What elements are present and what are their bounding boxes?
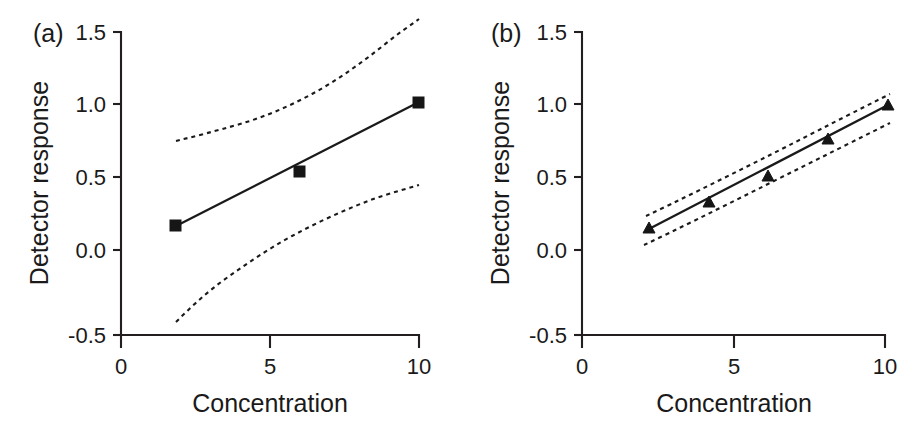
y-tick-label-a-4: 0.0 [75, 238, 106, 263]
panel-b-ci-lower [644, 123, 890, 245]
y-tick-label-b-1: 1.5 [536, 20, 567, 45]
y-tick-label-a-5: -0.5 [68, 323, 106, 348]
y-axis-title-b: Detector response [486, 81, 514, 285]
x-tick-label-b-2: 5 [728, 354, 740, 379]
panel-a-ci-lower [176, 185, 419, 322]
x-tick-label-a-1: 0 [115, 354, 127, 379]
x-tick-label-b-3: 10 [873, 354, 897, 379]
confidence-band-upper-a [176, 19, 419, 141]
data-point-marker [170, 220, 181, 231]
y-tick-label-a-2: 1.0 [75, 92, 106, 117]
data-point-marker [703, 196, 715, 207]
panel-b-svg: (b) 1.5 1.0 0.5 0.0 -0.5 0 5 10 Concentr… [458, 0, 916, 427]
y-tick-label-b-3: 0.5 [536, 165, 567, 190]
confidence-band-lower-a [176, 185, 419, 322]
y-tick-label-b-5: -0.5 [529, 323, 567, 348]
panel-a-svg: (a) 1.5 1.0 0.5 0.0 -0.5 0 5 10 Concentr… [0, 0, 458, 427]
panel-b-labels: (b) 1.5 1.0 0.5 0.0 -0.5 0 5 10 Concentr… [486, 19, 897, 417]
panel-b-ci-upper [646, 94, 890, 216]
y-tick-label-a-3: 0.5 [75, 165, 106, 190]
data-point-marker [882, 99, 894, 110]
panel-b-axes [574, 32, 885, 348]
x-tick-label-a-2: 5 [264, 354, 276, 379]
panel-label-b: (b) [491, 19, 522, 47]
x-axis-title-a: Concentration [192, 389, 348, 417]
chart-panel-b: (b) 1.5 1.0 0.5 0.0 -0.5 0 5 10 Concentr… [458, 0, 916, 427]
data-point-marker [413, 97, 424, 108]
regression-line-a [176, 102, 419, 226]
panel-a-ci-upper [176, 19, 419, 141]
y-tick-label-b-4: 0.0 [536, 238, 567, 263]
y-tick-label-a-1: 1.5 [75, 20, 106, 45]
panel-a-labels: (a) 1.5 1.0 0.5 0.0 -0.5 0 5 10 Concentr… [25, 19, 431, 417]
x-tick-label-b-1: 0 [576, 354, 588, 379]
x-axis-title-b: Concentration [656, 389, 812, 417]
x-tick-label-a-3: 10 [407, 354, 431, 379]
panel-a-axes [113, 32, 419, 348]
confidence-band-upper-b [646, 94, 890, 216]
y-tick-label-b-2: 1.0 [536, 92, 567, 117]
panel-label-a: (a) [33, 19, 64, 47]
chart-panel-a: (a) 1.5 1.0 0.5 0.0 -0.5 0 5 10 Concentr… [0, 0, 458, 427]
data-point-marker [294, 166, 305, 177]
data-point-marker [762, 170, 774, 181]
figure-canvas: (a) 1.5 1.0 0.5 0.0 -0.5 0 5 10 Concentr… [0, 0, 916, 427]
regression-line-b [647, 105, 888, 230]
y-axis-title-a: Detector response [25, 81, 53, 285]
confidence-band-lower-b [644, 123, 890, 245]
